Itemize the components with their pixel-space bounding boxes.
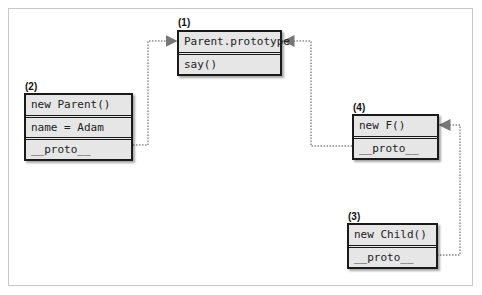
node-title: new Child() [349,225,436,245]
node-label-3: (3) [348,211,360,222]
node-new-child: new Child() __proto__ [347,223,438,269]
edge-f-instance-to-prototype [284,41,352,146]
node-new-parent: new Parent() name = Adam __proto__ [24,93,133,161]
node-label-1: (1) [178,17,190,28]
node-proto-field: __proto__ [349,245,436,267]
edge-child-instance-to-f-instance [437,125,460,255]
node-proto-field: __proto__ [354,136,437,158]
node-label-4: (4) [353,102,365,113]
node-title: new Parent() [26,95,131,115]
edge-parent-instance-to-prototype [133,41,176,145]
node-title: new F() [354,116,437,136]
node-proto-field: __proto__ [26,137,131,159]
node-new-f: new F() __proto__ [352,114,439,160]
node-property-name: name = Adam [26,115,131,137]
node-method-say: say() [179,52,280,74]
node-title: Parent.prototype [179,32,280,52]
node-parent-prototype: Parent.prototype say() [177,30,282,76]
node-label-2: (2) [25,81,37,92]
